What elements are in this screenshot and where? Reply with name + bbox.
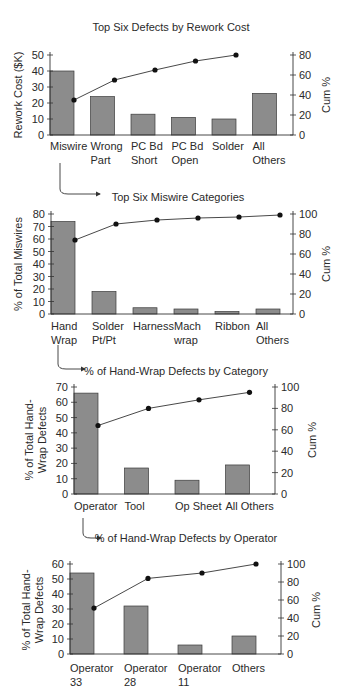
cumulative-marker	[113, 221, 118, 226]
category-label: Miswire	[50, 140, 87, 152]
category-label: 28	[124, 676, 136, 688]
svg-text:40: 40	[56, 427, 68, 439]
svg-text:80: 80	[33, 208, 45, 220]
cumulative-marker	[146, 406, 151, 411]
svg-text:10: 10	[32, 113, 44, 125]
cumulative-marker	[253, 561, 258, 566]
bar-operator-28	[124, 606, 148, 654]
svg-text:100: 100	[287, 558, 305, 570]
svg-text:80: 80	[287, 576, 299, 588]
svg-text:40: 40	[299, 268, 311, 280]
svg-text:20: 20	[32, 97, 44, 109]
category-label: All Others	[226, 500, 275, 512]
y-axis-label: Rework Cost ($K)	[12, 52, 24, 139]
svg-text:10: 10	[33, 296, 45, 308]
pareto-chart-2: Top Six Miswire Categories01020304050607…	[12, 178, 332, 346]
category-label: Others	[256, 334, 290, 346]
cumulative-marker	[277, 212, 282, 217]
cumulative-line	[74, 55, 236, 100]
category-label: Operator	[74, 500, 118, 512]
cumulative-marker	[154, 217, 159, 222]
svg-text:20: 20	[52, 618, 64, 630]
cumulative-marker	[112, 77, 117, 82]
bar-wrong-part	[91, 97, 115, 135]
cumulative-marker	[233, 52, 238, 57]
category-label: Mach	[174, 320, 201, 332]
y-axis-label-line2: Wrap Defects	[36, 406, 48, 473]
category-label: Tool	[125, 500, 145, 512]
svg-text:60: 60	[281, 424, 293, 436]
svg-text:10: 10	[56, 473, 68, 485]
bar-tool	[125, 468, 149, 494]
cumulative-marker	[195, 215, 200, 220]
bar-op-sheet	[175, 480, 199, 494]
bar-harness	[133, 308, 157, 314]
y-axis-label: % of Total Hand-	[20, 569, 32, 650]
svg-text:70: 70	[56, 381, 68, 393]
svg-text:50: 50	[32, 49, 44, 61]
category-label: Solder	[92, 320, 124, 332]
cumulative-marker	[247, 390, 252, 395]
chart-title: % of Hand-Wrap Defects by Category	[84, 365, 268, 377]
svg-text:20: 20	[33, 283, 45, 295]
svg-text:60: 60	[56, 396, 68, 408]
drilldown-arrow-icon	[58, 345, 85, 369]
bar-hand-wrap	[51, 222, 75, 315]
svg-text:70: 70	[33, 221, 45, 233]
svg-text:30: 30	[33, 271, 45, 283]
chart-title: Top Six Miswire Categories	[112, 191, 245, 203]
y-axis-label-line2: Wrap Defects	[33, 576, 45, 643]
bar-mach-wrap	[174, 309, 198, 314]
svg-text:20: 20	[299, 288, 311, 300]
category-label: All	[256, 320, 268, 332]
svg-text:50: 50	[52, 573, 64, 585]
bar-pc-bd-open	[172, 117, 196, 135]
pareto-chart-3: % of Hand-Wrap Defects by Category010203…	[23, 345, 318, 512]
bar-all-others	[253, 93, 277, 135]
bar-operator	[74, 393, 98, 494]
category-label: Pt/Pt	[92, 334, 116, 346]
svg-text:0: 0	[58, 648, 64, 660]
pareto-drilldown-figure: Top Six Defects by Rework Cost0102030405…	[0, 0, 341, 691]
cumulative-marker	[199, 570, 204, 575]
svg-text:80: 80	[281, 402, 293, 414]
svg-text:0: 0	[287, 648, 293, 660]
svg-text:60: 60	[287, 594, 299, 606]
svg-text:0: 0	[299, 129, 305, 141]
svg-text:0: 0	[39, 308, 45, 320]
y-axis-label: % of Total Miswires	[12, 217, 24, 311]
svg-text:30: 30	[32, 81, 44, 93]
svg-text:40: 40	[287, 612, 299, 624]
y2-axis-label: Cum %	[320, 77, 332, 113]
pareto-chart-4: % of Hand-Wrap Defects by Operator010203…	[20, 518, 322, 688]
svg-text:100: 100	[299, 208, 317, 220]
svg-text:60: 60	[52, 558, 64, 570]
cumulative-marker	[95, 423, 100, 428]
svg-text:40: 40	[52, 588, 64, 600]
bar-miswire	[50, 71, 74, 135]
svg-text:60: 60	[299, 248, 311, 260]
category-label: PC Bd	[172, 140, 204, 152]
svg-text:80: 80	[299, 49, 311, 61]
svg-text:0: 0	[281, 488, 287, 500]
category-label: Harness	[133, 320, 174, 332]
svg-text:50: 50	[56, 412, 68, 424]
svg-text:80: 80	[299, 228, 311, 240]
drilldown-arrow-icon	[60, 178, 100, 194]
svg-text:20: 20	[281, 467, 293, 479]
bar-all-others	[226, 465, 250, 494]
svg-text:40: 40	[281, 445, 293, 457]
svg-text:0: 0	[38, 129, 44, 141]
pareto-chart-1: Top Six Defects by Rework Cost0102030405…	[12, 21, 332, 166]
category-label: 11	[178, 676, 189, 688]
cumulative-marker	[152, 67, 157, 72]
svg-text:30: 30	[56, 442, 68, 454]
svg-text:60: 60	[33, 233, 45, 245]
bar-others	[232, 636, 256, 654]
bar-operator-11	[178, 645, 202, 654]
category-label: Operator	[178, 662, 222, 674]
svg-text:40: 40	[33, 258, 45, 270]
svg-text:40: 40	[32, 65, 44, 77]
cumulative-marker	[196, 397, 201, 402]
svg-text:60: 60	[299, 69, 311, 81]
